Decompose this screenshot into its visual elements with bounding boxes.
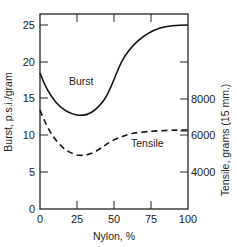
chart: 0 5 10 15 20 25 0 25 50 75 100 4000 6000… <box>0 0 237 247</box>
left-axis-ticks <box>40 25 48 172</box>
svg-text:0: 0 <box>37 213 43 225</box>
svg-text:4000: 4000 <box>191 166 215 178</box>
left-tick-labels: 0 5 10 15 20 25 <box>23 19 35 215</box>
svg-text:5: 5 <box>29 166 35 178</box>
tensile-curve <box>40 110 188 155</box>
svg-text:75: 75 <box>145 213 157 225</box>
svg-text:50: 50 <box>108 213 120 225</box>
svg-text:25: 25 <box>23 19 35 31</box>
svg-text:8000: 8000 <box>191 93 215 105</box>
right-axis-title: Tensile, grams (15 mm.) <box>219 84 231 197</box>
svg-text:100: 100 <box>179 213 197 225</box>
burst-label: Burst <box>69 75 94 87</box>
svg-text:25: 25 <box>71 213 83 225</box>
top-axis-ticks <box>77 14 151 22</box>
burst-curve <box>40 25 188 115</box>
svg-text:0: 0 <box>29 203 35 215</box>
tensile-label: Tensile <box>131 137 164 149</box>
svg-text:15: 15 <box>23 92 35 104</box>
bottom-tick-labels: 0 25 50 75 100 <box>37 213 197 225</box>
svg-text:20: 20 <box>23 56 35 68</box>
right-axis-ticks <box>180 62 188 172</box>
bottom-axis-ticks <box>77 201 151 209</box>
right-tick-labels: 4000 6000 8000 <box>191 93 215 178</box>
left-axis-title: Burst, p.s.i./gram <box>2 72 14 152</box>
svg-text:10: 10 <box>23 129 35 141</box>
x-axis-title: Nylon, % <box>93 230 135 242</box>
svg-text:6000: 6000 <box>191 129 215 141</box>
plot-frame <box>40 14 188 209</box>
